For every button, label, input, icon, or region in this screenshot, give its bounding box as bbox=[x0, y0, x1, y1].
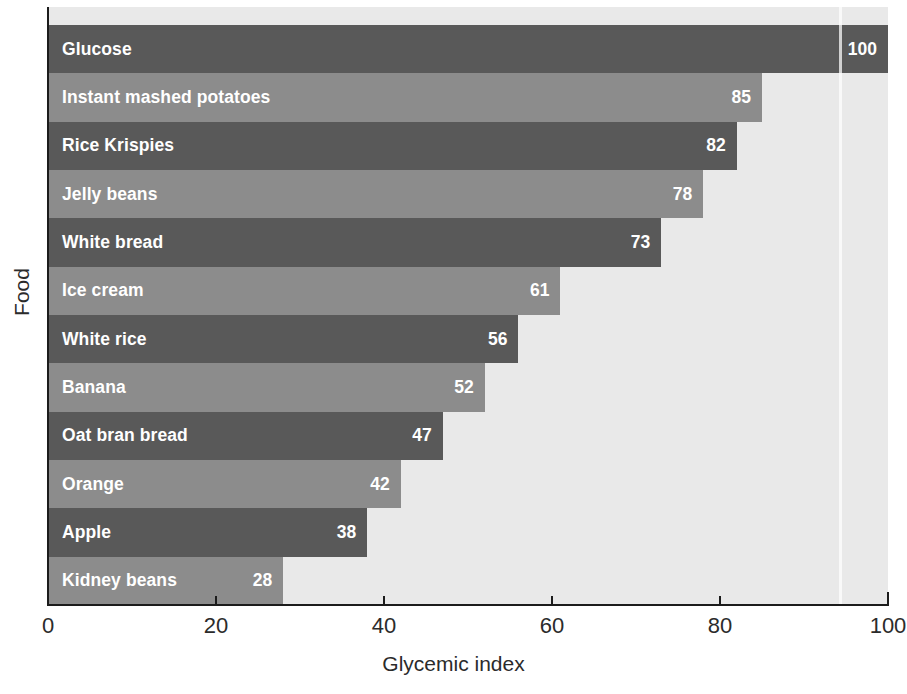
bar-value-label: 56 bbox=[488, 329, 518, 350]
bar: Jelly beans78 bbox=[48, 170, 703, 218]
bar-category-label: Glucose bbox=[48, 39, 132, 60]
bar-category-label: Orange bbox=[48, 474, 124, 495]
x-axis-tick-label: 60 bbox=[540, 613, 564, 639]
bar-row: White rice56 bbox=[48, 315, 888, 363]
x-axis-tick-label: 100 bbox=[870, 613, 907, 639]
y-axis-line bbox=[47, 7, 49, 605]
bar-value-label: 82 bbox=[706, 135, 736, 156]
bar: Glucose100 bbox=[48, 25, 888, 73]
bar-value-label: 85 bbox=[732, 87, 762, 108]
bar-category-label: Banana bbox=[48, 377, 126, 398]
bar-category-label: Oat bran bread bbox=[48, 425, 188, 446]
bar: Rice Krispies82 bbox=[48, 122, 737, 170]
x-axis-tick-label: 20 bbox=[204, 613, 228, 639]
bar: Oat bran bread47 bbox=[48, 412, 443, 460]
x-axis-tick bbox=[551, 596, 553, 605]
bar: White rice56 bbox=[48, 315, 518, 363]
bar-value-label: 100 bbox=[848, 39, 888, 60]
bar-value-label: 42 bbox=[370, 474, 400, 495]
x-axis-tick bbox=[719, 596, 721, 605]
x-axis-tick-label: 40 bbox=[372, 613, 396, 639]
bar-row: Oat bran bread47 bbox=[48, 412, 888, 460]
x-axis-title: Glycemic index bbox=[0, 652, 907, 676]
bar-row: Ice cream61 bbox=[48, 267, 888, 315]
bar: Banana52 bbox=[48, 363, 485, 411]
bar-category-label: Rice Krispies bbox=[48, 135, 174, 156]
bar: Ice cream61 bbox=[48, 267, 560, 315]
bar-value-label: 61 bbox=[530, 280, 560, 301]
x-axis-tick bbox=[887, 592, 889, 606]
bar-row: White bread73 bbox=[48, 218, 888, 266]
bar-row: Apple38 bbox=[48, 508, 888, 556]
bar-series: Glucose100Instant mashed potatoes85Rice … bbox=[48, 25, 888, 605]
bar-category-label: Kidney beans bbox=[48, 570, 177, 591]
plot-area: Glucose100Instant mashed potatoes85Rice … bbox=[48, 7, 888, 605]
x-axis-tick bbox=[47, 592, 49, 606]
bar-value-label: 38 bbox=[337, 522, 367, 543]
x-axis-tick-label: 80 bbox=[708, 613, 732, 639]
bar-row: Kidney beans28 bbox=[48, 557, 888, 605]
bar-row: Jelly beans78 bbox=[48, 170, 888, 218]
bar-category-label: Jelly beans bbox=[48, 184, 157, 205]
x-axis-tick-label: 0 bbox=[42, 613, 54, 639]
bar-value-label: 52 bbox=[454, 377, 484, 398]
glycemic-index-bar-chart: Glucose100Instant mashed potatoes85Rice … bbox=[0, 0, 907, 694]
bar-row: Banana52 bbox=[48, 363, 888, 411]
bar-category-label: White rice bbox=[48, 329, 147, 350]
bar-row: Instant mashed potatoes85 bbox=[48, 73, 888, 121]
y-axis-title: Food bbox=[10, 242, 34, 342]
bar-category-label: Apple bbox=[48, 522, 111, 543]
bar-row: Rice Krispies82 bbox=[48, 122, 888, 170]
bar-category-label: White bread bbox=[48, 232, 163, 253]
bar-value-label: 78 bbox=[673, 184, 703, 205]
bar: Instant mashed potatoes85 bbox=[48, 73, 762, 121]
bar-row: Orange42 bbox=[48, 460, 888, 508]
bar-value-label: 47 bbox=[412, 425, 442, 446]
bar-category-label: Ice cream bbox=[48, 280, 144, 301]
bar: Orange42 bbox=[48, 460, 401, 508]
x-axis-tick bbox=[383, 596, 385, 605]
bar-value-label: 73 bbox=[631, 232, 661, 253]
bar: Apple38 bbox=[48, 508, 367, 556]
bar: Kidney beans28 bbox=[48, 557, 283, 605]
x-axis-line bbox=[48, 604, 889, 606]
bar-value-label: 28 bbox=[253, 570, 283, 591]
x-axis-tick bbox=[215, 596, 217, 605]
bar-row: Glucose100 bbox=[48, 25, 888, 73]
bar: White bread73 bbox=[48, 218, 661, 266]
bar-category-label: Instant mashed potatoes bbox=[48, 87, 270, 108]
